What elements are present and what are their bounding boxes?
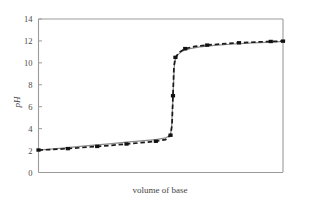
y-axis-tick-label: 14 <box>24 14 33 24</box>
x-axis-title: volume of base <box>133 185 188 195</box>
titration-plot-svg: 02468101214 pH volume of base <box>0 0 328 205</box>
data-point-markers <box>36 39 285 151</box>
data-point-marker <box>281 39 285 42</box>
y-axis-tick-label: 6 <box>28 102 32 112</box>
data-point-marker <box>124 142 128 145</box>
data-point-marker <box>171 94 175 97</box>
y-axis-tick-label: 12 <box>24 36 33 46</box>
data-point-marker <box>183 47 187 50</box>
y-axis-title: pH <box>12 96 22 109</box>
data-point-marker <box>36 148 40 151</box>
data-point-marker <box>237 41 241 44</box>
y-axis-tick-label: 10 <box>24 58 33 68</box>
y-axis-tick-label: 2 <box>28 146 32 156</box>
y-axis-tick-label: 4 <box>28 124 33 134</box>
data-point-marker <box>66 147 70 150</box>
data-point-marker <box>205 43 209 46</box>
data-point-marker <box>173 56 177 59</box>
series-line-dashed <box>39 41 284 150</box>
data-point-marker <box>154 140 158 143</box>
y-axis-tick-label: 0 <box>28 168 32 178</box>
y-axis-tick-label: 8 <box>28 80 32 90</box>
series-line-solid <box>39 41 284 150</box>
titration-chart-figure: 02468101214 pH volume of base <box>0 0 328 205</box>
data-point-marker <box>269 40 273 43</box>
data-point-marker <box>168 134 172 137</box>
data-point-marker <box>95 145 99 148</box>
y-axis-tick-labels: 02468101214 <box>24 14 33 178</box>
